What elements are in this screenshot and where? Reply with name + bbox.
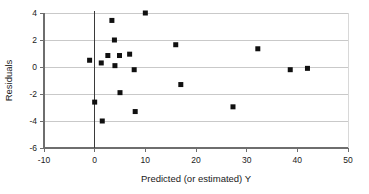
data-point-19 [305, 66, 310, 71]
data-point-16 [230, 104, 235, 109]
x-tick-label-30: 30 [242, 155, 252, 165]
gridlines-group [44, 13, 348, 121]
residual-scatter-plot: 420-2-4-6-1001020304050 Predicted (or es… [0, 0, 369, 194]
data-point-17 [255, 46, 260, 51]
data-point-2 [99, 60, 104, 65]
data-point-15 [178, 82, 183, 87]
y-tick-label-2: 2 [32, 35, 37, 45]
chart-canvas: 420-2-4-6-1001020304050 Predicted (or es… [0, 0, 369, 194]
x-tick-label-20: 20 [191, 155, 201, 165]
data-point-5 [109, 18, 114, 23]
y-axis-title: Residuals [3, 59, 14, 101]
data-point-18 [288, 67, 293, 72]
y-tick-label--4: -4 [29, 116, 37, 126]
x-tick-label-50: 50 [343, 155, 353, 165]
data-point-3 [100, 119, 105, 124]
x-tick-label-0: 0 [92, 155, 97, 165]
data-point-6 [112, 38, 117, 43]
data-point-14 [173, 42, 178, 47]
tick-labels-group: 420-2-4-6-1001020304050 [29, 8, 353, 165]
x-tick-label-40: 40 [293, 155, 303, 165]
data-point-8 [117, 53, 122, 58]
data-point-1 [92, 100, 97, 105]
data-point-4 [105, 53, 110, 58]
x-tick-label-10: 10 [141, 155, 151, 165]
x-axis-title: Predicted (or estimated) Y [141, 173, 252, 184]
data-point-7 [112, 63, 117, 68]
data-point-9 [118, 90, 123, 95]
x-tick-label--10: -10 [38, 155, 51, 165]
y-tick-label--6: -6 [29, 143, 37, 153]
tick-marks-group [40, 13, 348, 152]
data-point-12 [133, 109, 138, 114]
data-point-11 [132, 67, 137, 72]
data-point-13 [143, 11, 148, 16]
data-point-10 [127, 52, 132, 57]
y-tick-label-0: 0 [32, 62, 37, 72]
plot-frame [44, 11, 348, 148]
y-tick-label-4: 4 [32, 8, 37, 18]
y-tick-label--2: -2 [29, 89, 37, 99]
data-point-0 [87, 58, 92, 63]
